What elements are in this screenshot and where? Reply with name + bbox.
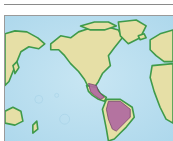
iceland-landmass — [138, 34, 146, 40]
top-rule — [4, 4, 173, 5]
world-map — [5, 16, 173, 141]
range-map — [4, 15, 173, 141]
